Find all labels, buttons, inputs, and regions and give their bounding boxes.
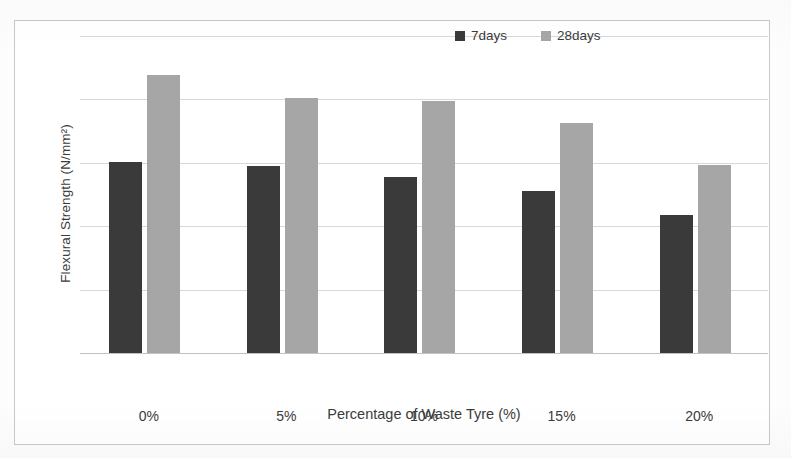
bar-7days-10%[interactable] <box>384 177 417 353</box>
bar-28days-15%[interactable] <box>560 123 593 353</box>
legend-label: 7days <box>471 28 507 43</box>
bar-7days-20%[interactable] <box>660 215 693 353</box>
chart-figure: Flexural Strength (N/mm²) 012345 0%5%10%… <box>0 0 791 458</box>
bar-7days-5%[interactable] <box>247 166 280 353</box>
bar-28days-0%[interactable] <box>147 75 180 353</box>
legend-swatch-icon <box>455 31 465 41</box>
x-axis-title: Percentage of Waste Tyre (%) <box>80 406 768 422</box>
legend-swatch-icon <box>541 31 551 41</box>
bar-group <box>630 36 768 353</box>
bar-28days-10%[interactable] <box>422 101 455 353</box>
gridline <box>80 353 768 354</box>
y-axis-title: Flexural Strength (N/mm²) <box>58 54 73 354</box>
plot-area: 012345 0%5%10%15%20% <box>80 36 768 353</box>
bar-group <box>355 36 493 353</box>
legend-label: 28days <box>557 28 601 43</box>
bar-28days-5%[interactable] <box>285 98 318 353</box>
legend-entry-7days[interactable]: 7days <box>455 28 507 43</box>
bar-7days-15%[interactable] <box>522 191 555 353</box>
bar-28days-20%[interactable] <box>698 165 731 353</box>
bar-group <box>493 36 631 353</box>
bar-group <box>218 36 356 353</box>
bar-groups <box>80 36 768 353</box>
bar-group <box>80 36 218 353</box>
legend-entry-28days[interactable]: 28days <box>541 28 601 43</box>
chart-legend: 7days28days <box>455 28 601 43</box>
bar-7days-0%[interactable] <box>109 162 142 353</box>
